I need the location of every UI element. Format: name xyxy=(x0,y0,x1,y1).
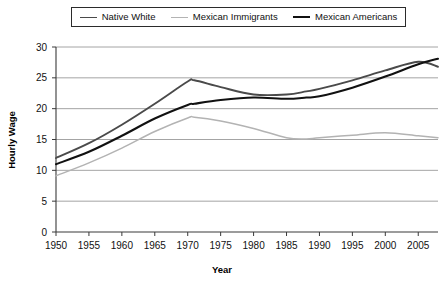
x-tick-label: 2005 xyxy=(407,240,430,251)
x-tick-label: 1955 xyxy=(78,240,101,251)
series-line-mexican-americans xyxy=(56,59,438,164)
y-axis-title: Hourly Wage xyxy=(6,111,17,169)
y-tick-label: 30 xyxy=(36,42,48,53)
x-tick-label: 1960 xyxy=(111,240,134,251)
y-tick-label: 20 xyxy=(36,103,48,114)
y-tick-label: 0 xyxy=(41,227,47,238)
x-tick-label: 1980 xyxy=(242,240,265,251)
x-tick-labels: 1950195519601965197019751980198519901995… xyxy=(45,232,430,251)
y-tick-label: 5 xyxy=(41,196,47,207)
y-tick-label: 15 xyxy=(36,134,48,145)
y-tick-labels: 051015202530 xyxy=(36,42,56,238)
y-tick-label: 10 xyxy=(36,165,48,176)
grid-lines xyxy=(56,47,438,201)
x-tick-label: 1965 xyxy=(144,240,167,251)
x-tick-label: 1970 xyxy=(177,240,200,251)
x-axis-title: Year xyxy=(212,264,232,275)
x-tick-label: 1950 xyxy=(45,240,68,251)
data-series xyxy=(56,59,438,176)
series-line-native-white xyxy=(56,62,438,158)
y-tick-label: 25 xyxy=(36,72,48,83)
x-tick-label: 1985 xyxy=(275,240,298,251)
x-tick-label: 1990 xyxy=(308,240,331,251)
x-tick-label: 2000 xyxy=(374,240,397,251)
x-tick-label: 1975 xyxy=(210,240,233,251)
x-tick-label: 1995 xyxy=(341,240,364,251)
series-line-mexican-immigrants xyxy=(56,117,438,176)
line-chart-plot: 051015202530 195019551960196519701975198… xyxy=(0,0,444,287)
chart-figure: Native White Mexican Immigrants Mexican … xyxy=(0,0,444,287)
